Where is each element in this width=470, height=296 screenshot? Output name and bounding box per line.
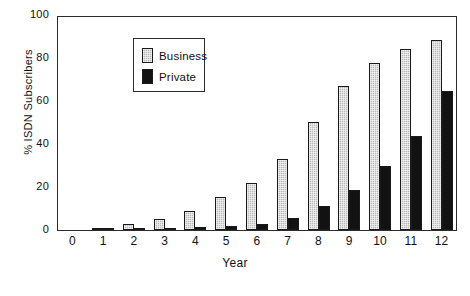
bar-private-year-6 (257, 224, 268, 230)
bar-business-year-11 (400, 49, 411, 230)
y-tick-label: 20 (23, 180, 49, 192)
x-tick-label: 2 (122, 234, 146, 248)
legend-item-business: Business (142, 45, 204, 66)
x-tick-label: 4 (183, 234, 207, 248)
bar-private-year-1 (103, 228, 114, 230)
bar-private-year-8 (319, 206, 330, 230)
x-tick-label: 1 (91, 234, 115, 248)
bar-business-year-10 (369, 63, 380, 230)
bar-private-year-4 (195, 227, 206, 230)
x-axis-title: Year (0, 256, 470, 270)
bar-business-year-12 (431, 40, 442, 230)
bar-business-year-4 (184, 211, 195, 230)
bars-layer (58, 17, 456, 230)
bar-business-year-2 (123, 224, 134, 230)
legend-label-business: Business (159, 50, 207, 62)
bar-business-year-8 (308, 122, 319, 230)
legend-label-private: Private (159, 71, 196, 83)
bar-private-year-5 (226, 226, 237, 230)
x-tick-label: 11 (399, 234, 423, 248)
y-tick-label: 80 (23, 51, 49, 63)
bar-private-year-11 (411, 136, 422, 230)
legend-item-private: Private (142, 66, 204, 87)
bar-private-year-3 (165, 228, 176, 230)
bar-business-year-3 (154, 219, 165, 230)
bar-private-year-7 (288, 218, 299, 230)
bar-business-year-1 (92, 228, 103, 230)
bar-private-year-12 (442, 91, 453, 231)
bar-business-year-7 (277, 159, 288, 230)
x-tick-label: 12 (430, 234, 454, 248)
bar-private-year-10 (380, 166, 391, 230)
isdn-subscribers-bar-chart: % ISDN Subscribers 020406080100 Business… (0, 0, 470, 296)
legend-swatch-private-icon (142, 69, 153, 84)
bar-business-year-6 (246, 183, 257, 230)
y-tick-label: 100 (23, 8, 49, 20)
x-tick-label: 7 (276, 234, 300, 248)
x-tick-label: 6 (245, 234, 269, 248)
x-tick-label: 3 (153, 234, 177, 248)
legend-swatch-business-icon (142, 48, 153, 63)
bar-private-year-9 (349, 190, 360, 230)
x-tick-label: 9 (337, 234, 361, 248)
y-tick-label: 40 (23, 137, 49, 149)
bar-business-year-5 (215, 197, 226, 230)
x-tick-label: 10 (368, 234, 392, 248)
bar-private-year-2 (134, 228, 145, 230)
y-tick-label: 60 (23, 94, 49, 106)
y-tick-label: 0 (23, 223, 49, 235)
chart-legend: Business Private (133, 38, 205, 92)
x-tick-label: 8 (307, 234, 331, 248)
x-tick-label: 0 (60, 234, 84, 248)
bar-business-year-9 (338, 86, 349, 230)
x-tick-label: 5 (214, 234, 238, 248)
